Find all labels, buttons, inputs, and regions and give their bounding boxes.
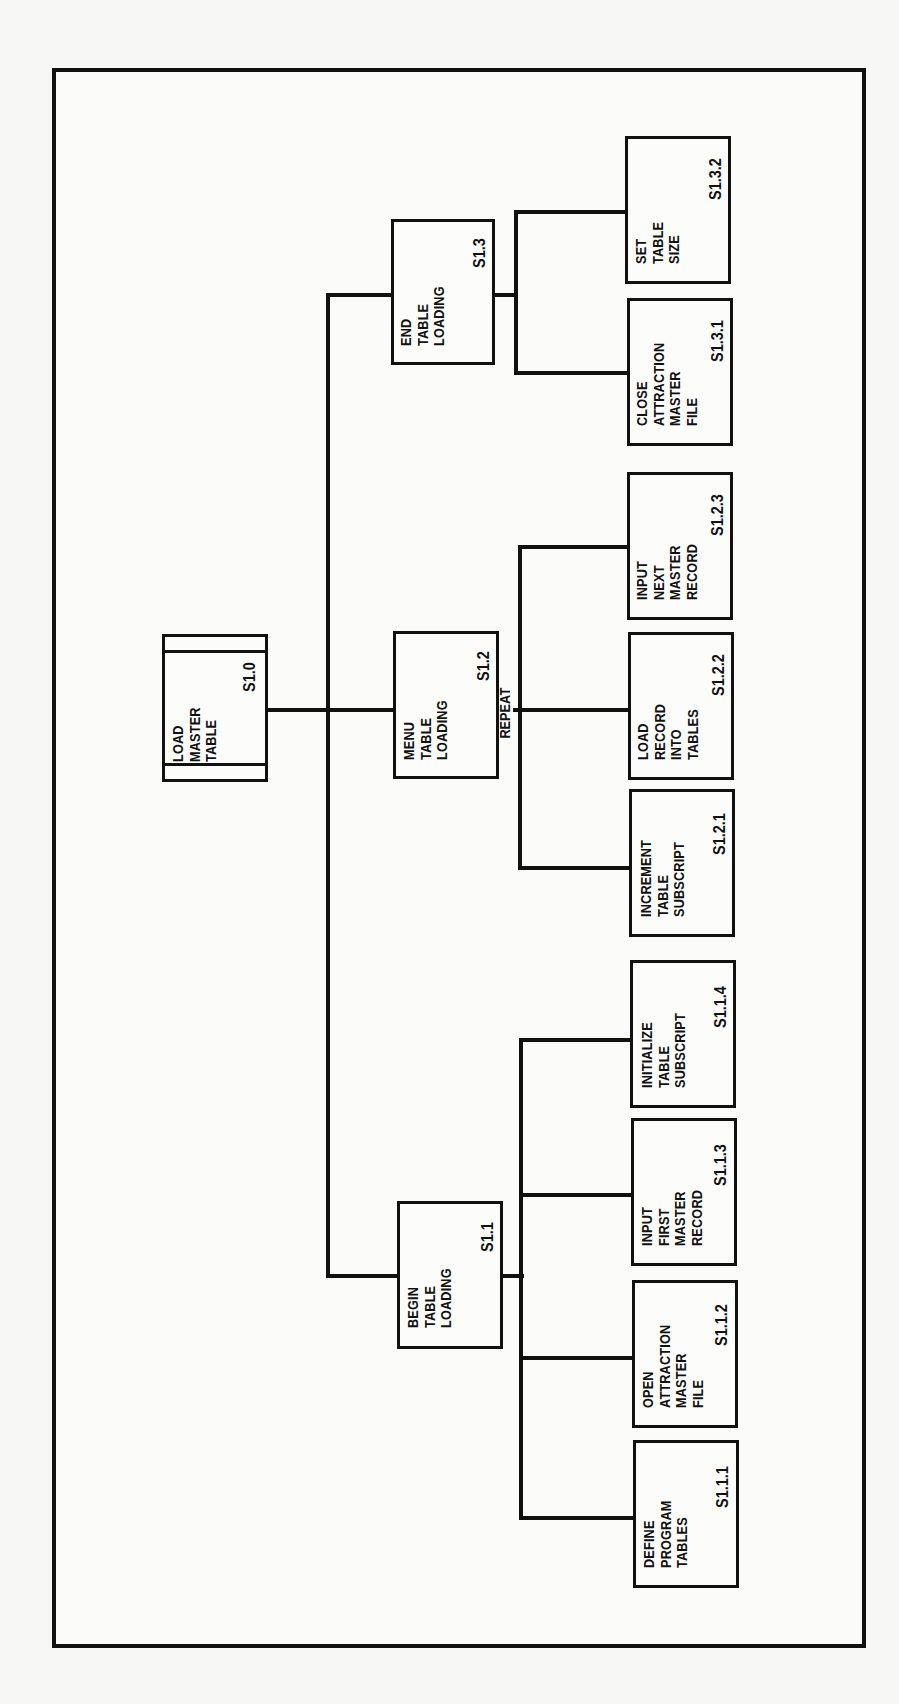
node-s1-1-1-label: DEFINE PROGRAM TABLES: [641, 1486, 691, 1568]
branch-s1-3: [514, 210, 518, 375]
connector-spine-to-s1-3: [326, 293, 392, 297]
node-s1-2-1-label: INCREMENT TABLE SUBSCRIPT: [638, 823, 688, 917]
connector-to-s1-1-4-ext: [579, 1038, 632, 1042]
connector-to-s1-1-1-ext: [579, 1516, 635, 1520]
connector-to-s1-3-1-ext: [574, 371, 629, 375]
node-s1-3-2-label: SET TABLE SIZE: [633, 212, 683, 264]
node-s1-1-1-code: S1.1.1: [713, 1466, 733, 1508]
node-s1-2-2-label: LOAD RECORD INTO TABLES: [635, 692, 701, 760]
node-s1-1-2-code: S1.1.2: [712, 1304, 732, 1346]
connector-to-s1-2-3-ext: [578, 545, 629, 549]
connector-to-s1-2-2: [518, 708, 582, 712]
node-s1-2-2-code: S1.2.2: [709, 654, 729, 696]
node-s1-0-code: S1.0: [240, 662, 260, 692]
connector-to-s1-2-1: [518, 866, 582, 870]
module-band-bottom: [165, 763, 265, 766]
node-s1-3-code: S1.3: [470, 238, 490, 268]
node-s1-1-3-code: S1.1.3: [711, 1144, 731, 1186]
node-s1-0-label: LOAD MASTER TABLE: [170, 695, 220, 762]
connector-to-s1-1-4: [519, 1038, 583, 1042]
connector-to-s1-2-1-ext: [578, 866, 631, 870]
connector-root-to-spine: [266, 708, 330, 712]
connector-spine-to-s1-2: [326, 708, 396, 712]
connector-to-s1-3-2: [514, 210, 578, 214]
connector-spine-to-s1-1: [326, 1274, 399, 1278]
connector-to-s1-3-1: [514, 371, 578, 375]
node-s1-1-2-label: OPEN ATTRACTION MASTER FILE: [640, 1306, 706, 1408]
connector-to-s1-2-2-ext: [578, 708, 630, 712]
module-band-top: [165, 650, 265, 653]
node-s1-3-1-label: CLOSE ATTRACTION MASTER FILE: [634, 324, 700, 426]
node-s1-2-code: S1.2: [474, 651, 494, 681]
connector-to-s1-1-2-ext: [579, 1356, 634, 1360]
main-spine: [326, 293, 330, 1278]
node-s1-2-label: MENU TABLE LOADING: [401, 687, 451, 760]
connector-to-s1-1-2: [519, 1356, 583, 1360]
node-s1-3-2-code: S1.3.2: [706, 158, 726, 200]
connector-to-s1-1-3: [519, 1193, 583, 1197]
connector-to-s1-1-3-ext: [579, 1193, 633, 1197]
node-s1-2-1-code: S1.2.1: [710, 813, 730, 855]
node-s1-3-1-code: S1.3.1: [708, 320, 728, 362]
node-s1-1-code: S1.1: [478, 1222, 498, 1252]
node-s1-1-4-label: INITIALIZE TABLE SUBSCRIPT: [639, 997, 689, 1088]
node-s1-1-4-code: S1.1.4: [711, 986, 731, 1028]
connector-to-s1-1-1: [519, 1516, 583, 1520]
node-s1-1-3-label: INPUT FIRST MASTER RECORD: [639, 1178, 705, 1246]
connector-to-s1-3-2-ext: [574, 210, 627, 214]
node-s1-3-label: END TABLE LOADING: [398, 273, 448, 346]
connector-to-s1-2-3: [518, 545, 582, 549]
node-s1-2-3-code: S1.2.3: [708, 494, 728, 536]
node-s1-2-3-label: INPUT NEXT MASTER RECORD: [634, 532, 700, 600]
branch-s1-1: [519, 1038, 523, 1520]
node-s1-1-label: BEGIN TABLE LOADING: [405, 1255, 455, 1328]
